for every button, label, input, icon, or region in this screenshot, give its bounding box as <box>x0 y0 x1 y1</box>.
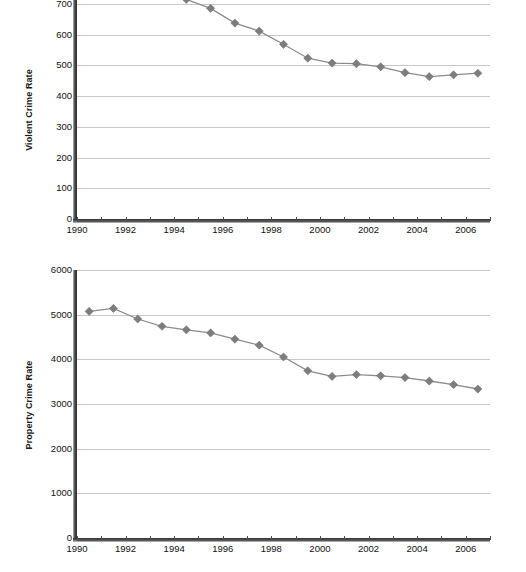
data-point-marker <box>449 71 457 79</box>
data-point-marker <box>425 73 433 81</box>
property-series-layer <box>0 255 526 572</box>
x-tick-mark <box>369 536 370 540</box>
x-tick-mark <box>441 217 442 221</box>
x-tick-mark <box>417 536 418 540</box>
data-point-marker <box>377 63 385 71</box>
x-tick-mark <box>247 536 248 540</box>
x-tick-mark <box>369 217 370 221</box>
data-point-marker <box>255 27 263 35</box>
x-tick-mark <box>296 217 297 221</box>
x-tick-mark <box>393 536 394 540</box>
x-tick-mark <box>393 217 394 221</box>
x-tick-mark <box>271 217 272 221</box>
x-tick-mark <box>150 536 151 540</box>
data-point-marker <box>85 307 93 315</box>
data-point-marker <box>377 372 385 380</box>
x-tick-mark <box>101 536 102 540</box>
x-tick-mark <box>223 217 224 221</box>
x-tick-mark <box>441 536 442 540</box>
x-tick-mark <box>174 536 175 540</box>
x-tick-mark <box>126 217 127 221</box>
data-point-marker <box>352 370 360 378</box>
x-tick-mark <box>223 536 224 540</box>
x-tick-mark <box>490 536 491 540</box>
x-tick-mark <box>198 217 199 221</box>
data-point-marker <box>134 315 142 323</box>
data-point-marker <box>182 0 190 4</box>
data-point-marker <box>109 304 117 312</box>
property-plot-area: Property Crime Rate 01000200030004000500… <box>0 255 526 572</box>
property-crime-rate-chart: Property Crime Rate 01000200030004000500… <box>0 255 526 572</box>
data-point-marker <box>182 326 190 334</box>
x-tick-mark <box>320 536 321 540</box>
x-tick-mark <box>296 536 297 540</box>
data-point-marker <box>328 59 336 67</box>
x-tick-mark <box>466 217 467 221</box>
y-axis-line <box>73 0 77 222</box>
x-tick-mark <box>417 217 418 221</box>
data-point-marker <box>474 385 482 393</box>
series-line <box>89 308 478 389</box>
series-line <box>89 0 478 77</box>
x-tick-mark <box>490 217 491 221</box>
x-tick-mark <box>344 217 345 221</box>
x-tick-mark <box>198 536 199 540</box>
data-point-marker <box>279 40 287 48</box>
data-point-marker <box>207 329 215 337</box>
x-tick-mark <box>101 217 102 221</box>
violent-series-layer <box>0 0 526 250</box>
x-tick-mark <box>150 217 151 221</box>
x-tick-mark <box>466 536 467 540</box>
data-point-marker <box>328 372 336 380</box>
data-point-marker <box>401 373 409 381</box>
x-axis-tick-rule <box>77 221 490 222</box>
x-tick-mark <box>126 536 127 540</box>
data-point-marker <box>231 19 239 27</box>
x-tick-mark <box>320 217 321 221</box>
data-point-marker <box>279 353 287 361</box>
x-tick-mark <box>344 536 345 540</box>
violent-crime-rate-chart: Violent Crime Rate 010020030040050060070… <box>0 0 526 250</box>
x-axis-tick-rule <box>77 540 490 541</box>
x-tick-mark <box>77 536 78 540</box>
data-point-marker <box>304 54 312 62</box>
data-point-marker <box>255 341 263 349</box>
data-point-marker <box>425 377 433 385</box>
y-axis-line <box>73 270 77 541</box>
data-point-marker <box>401 69 409 77</box>
data-point-marker <box>449 381 457 389</box>
x-tick-mark <box>271 536 272 540</box>
data-point-marker <box>304 367 312 375</box>
x-tick-mark <box>174 217 175 221</box>
data-point-marker <box>231 335 239 343</box>
x-tick-mark <box>77 217 78 221</box>
violent-plot-area: Violent Crime Rate 010020030040050060070… <box>0 0 526 250</box>
data-point-marker <box>474 69 482 77</box>
data-point-marker <box>158 322 166 330</box>
data-point-marker <box>207 4 215 12</box>
data-point-marker <box>352 60 360 68</box>
x-tick-mark <box>247 217 248 221</box>
